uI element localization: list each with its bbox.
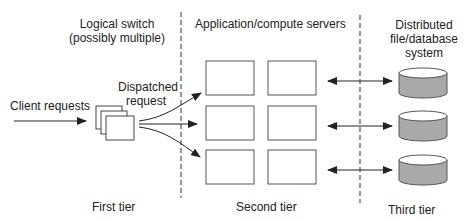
second-tier-label: Second tier xyxy=(236,200,297,214)
dispatched-request-label: Dispatched request xyxy=(118,80,174,108)
logical-switch-title: Logical switch xyxy=(62,17,172,31)
dfs-label: Distributed file/database system xyxy=(384,18,464,60)
dispatched-line2: request xyxy=(118,94,174,108)
dfs-label-line1: Distributed xyxy=(384,18,464,32)
app-servers xyxy=(206,61,316,184)
app-servers-label: Application/compute servers xyxy=(195,17,330,31)
dispatched-line1: Dispatched xyxy=(118,80,174,94)
first-tier-label: First tier xyxy=(92,200,135,214)
dispatch-arrow-bottom xyxy=(139,127,200,157)
logical-switch-icon xyxy=(96,106,134,140)
dfs-label-line2: file/database xyxy=(384,32,464,46)
database-cylinder-2 xyxy=(399,111,447,141)
dfs-label-line3: system xyxy=(384,46,464,60)
logical-switch-label: Logical switch (possibly multiple) xyxy=(62,17,172,45)
third-tier-label: Third tier xyxy=(388,203,435,217)
client-requests-label: Client requests xyxy=(10,99,90,113)
database-cylinder-1 xyxy=(399,68,447,98)
database-cylinder-3 xyxy=(399,155,447,185)
logical-switch-subtitle: (possibly multiple) xyxy=(62,31,172,45)
